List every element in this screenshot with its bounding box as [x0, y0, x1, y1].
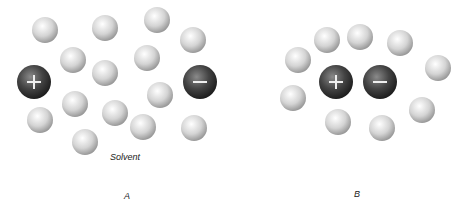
solvent-molecule [285, 47, 311, 73]
solvent-molecule [92, 15, 118, 41]
solvent-molecule [325, 109, 351, 135]
solvent-molecule [387, 30, 413, 56]
solvent-molecule [134, 45, 160, 71]
solvation-diagram: Solvent A B [0, 0, 457, 202]
panel-a [17, 7, 217, 155]
panel-b-label: B [354, 189, 360, 199]
solvent-molecule [92, 60, 118, 86]
solvent-molecule [369, 115, 395, 141]
panel-a-label: A [123, 191, 130, 201]
solvent-molecule [314, 27, 340, 53]
solvent-molecule [60, 47, 86, 73]
solvent-molecule [144, 7, 170, 33]
solvent-molecule [347, 24, 373, 50]
solvent-molecule [130, 114, 156, 140]
solvent-molecule [180, 27, 206, 53]
solvent-molecule [72, 129, 98, 155]
panel-b [280, 24, 451, 141]
solvent-molecule [425, 55, 451, 81]
solvent-molecule [27, 107, 53, 133]
solvent-molecule [62, 91, 88, 117]
solvent-molecule [102, 100, 128, 126]
solvent-molecule [280, 85, 306, 111]
solvent-molecule [409, 97, 435, 123]
solvent-molecule [32, 17, 58, 43]
solvent-molecule [147, 82, 173, 108]
solvent-molecule [181, 115, 207, 141]
solvent-caption: Solvent [110, 152, 141, 162]
